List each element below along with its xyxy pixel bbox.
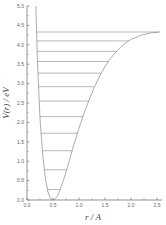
x-tick-label: 1.0 xyxy=(76,202,83,208)
potential-curve xyxy=(36,6,160,200)
y-tick-label: 3.5 xyxy=(17,61,24,67)
y-tick-label: 3.0 xyxy=(17,80,24,86)
y-tick-label: 0.5 xyxy=(17,177,24,183)
morse-potential-chart: 0.00.51.01.52.02.53.03.54.04.55.0 0.00.5… xyxy=(0,0,166,225)
x-axis-label: r / A xyxy=(85,212,101,222)
x-tick-label: 2.0 xyxy=(128,202,135,208)
x-tick-label: 2.5 xyxy=(154,202,161,208)
x-tick-label: 0.0 xyxy=(24,202,31,208)
y-tick-label: 1.0 xyxy=(17,158,24,164)
y-tick-label: 2.5 xyxy=(17,100,24,106)
y-tick-label: 4.5 xyxy=(17,22,24,28)
y-tick-label: 5.0 xyxy=(17,3,24,9)
x-tick-label: 1.5 xyxy=(102,202,109,208)
x-ticks: 0.00.51.01.52.02.5 xyxy=(24,198,166,209)
y-tick-label: 2.0 xyxy=(17,119,24,125)
y-tick-label: 1.5 xyxy=(17,139,24,145)
x-tick-label: 0.5 xyxy=(50,202,57,208)
y-tick-label: 4.0 xyxy=(17,42,24,48)
energy-levels xyxy=(37,32,160,190)
y-axis-label: V(r) / eV xyxy=(1,86,11,119)
y-ticks: 0.00.51.01.52.02.53.03.54.04.55.0 xyxy=(17,3,29,203)
